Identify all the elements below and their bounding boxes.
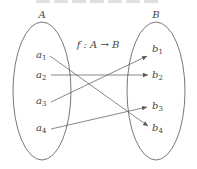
element-a1: a1: [36, 49, 46, 62]
element-a2: a2: [36, 69, 46, 82]
element-b4: b4: [152, 122, 163, 135]
element-a4: a4: [36, 122, 47, 135]
set-b-label: B: [151, 9, 159, 20]
element-b2: b2: [152, 69, 163, 82]
element-b1: b1: [152, 43, 163, 56]
function-label: f : A → B: [76, 39, 120, 50]
arrow-a1-to-b4: [50, 56, 148, 126]
element-b3: b3: [152, 100, 163, 113]
arrow-a4-to-b3: [51, 107, 147, 129]
element-a3: a3: [36, 95, 46, 108]
arrow-a3-to-b1: [51, 56, 147, 102]
set-a-label: A: [37, 9, 45, 20]
set-a-ellipse: [13, 22, 71, 160]
mapping-diagram: Aa1a2a3a4Bb1b2b3b4 f : A → B: [0, 0, 197, 169]
